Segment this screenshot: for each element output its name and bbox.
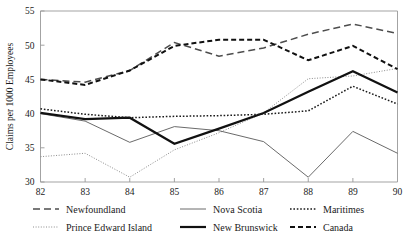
y-axis-tick-labels: 303540455055 [25,6,35,187]
y-tick-label: 30 [25,177,35,187]
legend-entry-new-brunswick: New Brunswick [180,222,278,233]
x-tick-label: 90 [393,187,403,197]
x-tick-label: 89 [348,187,358,197]
legend-label-newfoundland: Newfoundland [66,204,125,215]
legend-entry-maritimes: Maritimes [290,204,364,215]
legend-label-nova-scotia: Nova Scotia [213,204,263,215]
x-tick-label: 88 [304,187,314,197]
series-line-prince-edward-island [41,68,398,177]
series-line-nova-scotia [41,114,398,178]
x-tick-label: 85 [170,187,180,197]
legend-label-new-brunswick: New Brunswick [213,222,278,233]
legend-entry-prince-edward-island: Prince Edward Island [33,222,152,233]
line-chart: 303540455055 828384858687888990 Claims p… [0,0,413,241]
legend-label-canada: Canada [323,222,354,233]
legend-label-maritimes: Maritimes [323,204,364,215]
axes [41,11,398,182]
legend-label-prince-edward-island: Prince Edward Island [66,222,152,233]
chart-figure: 303540455055 828384858687888990 Claims p… [0,0,413,241]
y-axis-title: Claims per 1000 Employees [5,43,15,151]
x-tick-label: 82 [36,187,46,197]
x-tick-label: 87 [259,187,269,197]
x-axis-tick-labels: 828384858687888990 [36,187,403,197]
legend-entry-canada: Canada [290,222,354,233]
series-line-newfoundland [41,24,398,82]
y-tick-label: 55 [25,6,35,16]
y-tick-label: 50 [25,41,35,51]
x-tick-label: 83 [80,187,90,197]
axis-spine-left-bottom [41,11,398,182]
chart-legend: NewfoundlandNova ScotiaMaritimesPrince E… [33,204,364,233]
y-tick-label: 35 [25,143,35,153]
legend-entry-newfoundland: Newfoundland [33,204,125,215]
series-line-canada [41,40,398,85]
x-tick-label: 84 [125,187,135,197]
y-tick-label: 40 [25,109,35,119]
x-tick-label: 86 [214,187,224,197]
legend-entry-nova-scotia: Nova Scotia [180,204,263,215]
data-series [41,24,398,177]
y-axis-title-text: Claims per 1000 Employees [5,43,15,151]
series-line-maritimes [41,86,398,117]
y-tick-label: 45 [25,75,35,85]
axis-ticks [41,11,353,182]
